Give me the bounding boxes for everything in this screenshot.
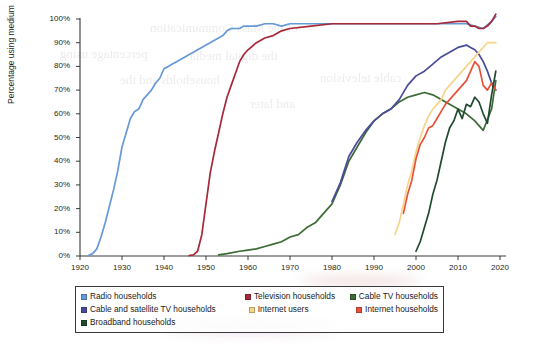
y-axis-title: Percentage using medium	[6, 90, 16, 104]
chart-figure: Percentage using medium 0%10%20%30%40%50…	[0, 0, 540, 347]
x-tick-label: 2000	[396, 263, 436, 272]
y-tick-label: 10%	[36, 227, 70, 236]
series-line-radio-households	[88, 17, 495, 256]
legend-label: Television households	[254, 290, 335, 303]
legend-swatch-icon	[356, 307, 362, 313]
legend-item[interactable]: Cable TV households	[350, 290, 438, 303]
legend-row: Cable and satellite TV householdsInterne…	[81, 303, 438, 316]
legend-label: Broadband households	[90, 316, 175, 329]
legend-swatch-icon	[350, 294, 356, 300]
legend-swatch-icon	[81, 320, 87, 326]
legend-item[interactable]: Cable and satellite TV households	[81, 303, 249, 316]
legend-item[interactable]: Broadband households	[81, 316, 253, 329]
x-tick-label: 1960	[228, 263, 268, 272]
legend-item[interactable]: Television households	[245, 290, 350, 303]
legend-label: Radio households	[90, 290, 156, 303]
y-tick-label: 70%	[36, 85, 70, 94]
series-line-television-households	[189, 14, 496, 255]
x-tick-label: 2020	[480, 263, 520, 272]
series-line-cable-tv-households	[219, 81, 496, 255]
chart-legend: Radio householdsTelevision householdsCab…	[75, 286, 444, 333]
y-tick-label: 0%	[36, 251, 70, 260]
legend-swatch-icon	[81, 307, 87, 313]
legend-item[interactable]: Internet households	[356, 303, 438, 316]
x-tick-label: 1930	[102, 263, 142, 272]
series-line-broadband-households	[416, 71, 496, 251]
x-tick-label: 1970	[270, 263, 310, 272]
x-tick-label: 2010	[438, 263, 478, 272]
legend-label: Internet households	[365, 303, 438, 316]
y-tick-label: 30%	[36, 180, 70, 189]
legend-row: Radio householdsTelevision householdsCab…	[81, 290, 438, 303]
y-tick-label: 40%	[36, 156, 70, 165]
y-tick-label: 90%	[36, 38, 70, 47]
legend-swatch-icon	[249, 307, 255, 313]
legend-swatch-icon	[245, 294, 251, 300]
y-tick-label: 60%	[36, 109, 70, 118]
legend-item[interactable]: Radio households	[81, 290, 245, 303]
legend-row: Broadband households	[81, 316, 438, 329]
x-tick-label: 1950	[186, 263, 226, 272]
y-tick-label: 20%	[36, 204, 70, 213]
legend-swatch-icon	[81, 294, 87, 300]
y-tick-label: 100%	[36, 14, 70, 23]
legend-label: Internet users	[258, 303, 309, 316]
legend-label: Cable and satellite TV households	[90, 303, 216, 316]
x-tick-label: 1980	[312, 263, 352, 272]
x-tick-label: 1940	[144, 263, 184, 272]
legend-label: Cable TV households	[359, 290, 438, 303]
x-tick-label: 1920	[60, 263, 100, 272]
legend-item[interactable]: Internet users	[249, 303, 356, 316]
y-tick-label: 80%	[36, 61, 70, 70]
x-tick-label: 1990	[354, 263, 394, 272]
y-tick-label: 50%	[36, 133, 70, 142]
